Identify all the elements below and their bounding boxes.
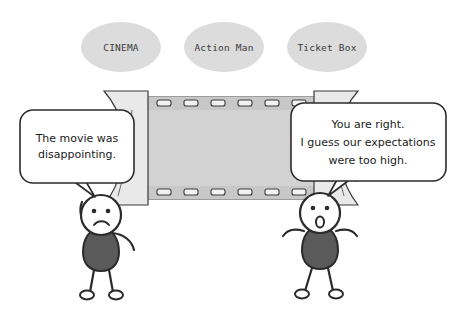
tag-action-man-label: Action Man	[194, 42, 253, 53]
sprocket-hole	[157, 100, 171, 106]
sprocket-hole	[238, 100, 252, 106]
tag-cinema-label: CINEMA	[103, 42, 139, 53]
sprocket-hole	[292, 189, 306, 195]
right-character-eye	[325, 206, 330, 211]
left-character	[80, 195, 134, 300]
tag-group: CINEMA Action Man Ticket Box	[81, 22, 367, 72]
right-speech-bubble-line: You are right.	[330, 118, 404, 131]
left-character-eye	[106, 209, 111, 214]
right-speech-bubble-line: were too high.	[328, 154, 407, 167]
left-character-eye	[92, 209, 97, 214]
sprocket-hole	[184, 100, 198, 106]
comic-illustration: CINEMA Action Man Ticket Box	[0, 0, 462, 312]
left-speech-bubble-line: disappointing.	[38, 148, 116, 161]
sprocket-hole	[184, 189, 198, 195]
right-character-arm-right	[336, 230, 357, 236]
right-character-leg	[305, 268, 312, 291]
sprocket-hole	[157, 189, 171, 195]
comic-scene: CINEMA Action Man Ticket Box	[0, 0, 462, 312]
sprocket-hole	[238, 189, 252, 195]
right-character-arm-left	[283, 230, 304, 236]
right-character-mouth-open	[316, 217, 324, 228]
left-character-head	[81, 195, 121, 235]
sprocket-hole	[211, 100, 225, 106]
right-character-leg	[328, 268, 333, 291]
right-character-foot	[329, 290, 343, 299]
left-character-foot	[109, 291, 123, 300]
sprocket-hole	[265, 189, 279, 195]
left-character-leg	[109, 270, 113, 292]
right-character-foot	[295, 290, 309, 299]
left-character-leg	[90, 270, 94, 292]
sprocket-hole	[265, 100, 279, 106]
right-speech-bubble-line: I guess our expectations	[301, 136, 436, 149]
left-speech-bubble-body	[20, 110, 134, 183]
tag-ticket-box-label: Ticket Box	[297, 42, 356, 53]
left-speech-bubble-line: The movie was	[35, 132, 119, 145]
tag-cinema: CINEMA	[81, 22, 161, 72]
tag-ticket-box: Ticket Box	[287, 22, 367, 72]
right-character-eye	[311, 206, 316, 211]
tag-action-man: Action Man	[184, 22, 264, 72]
sprocket-hole	[211, 189, 225, 195]
left-character-foot	[80, 291, 94, 300]
right-character	[283, 193, 357, 299]
